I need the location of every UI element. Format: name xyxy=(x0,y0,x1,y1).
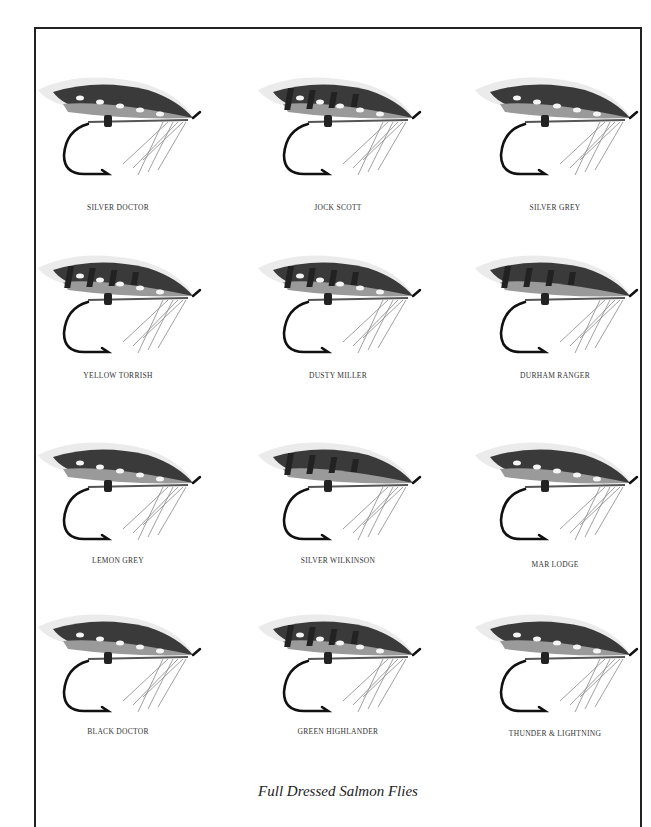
fly-illustration: THUNDER & LIGHTNING xyxy=(455,597,651,767)
fly-illustration: DURHAM RANGER xyxy=(455,238,651,408)
fly-illustration: JOCK SCOTT xyxy=(238,60,438,230)
fly-name-label: DURHAM RANGER xyxy=(455,371,651,380)
fly-name-label: SILVER WILKINSON xyxy=(238,556,438,565)
salmon-fly-icon xyxy=(455,425,651,555)
fly-illustration: DUSTY MILLER xyxy=(238,238,438,408)
salmon-fly-icon xyxy=(238,597,438,727)
salmon-fly-icon xyxy=(18,425,218,555)
salmon-fly-icon xyxy=(18,238,218,368)
fly-name-label: MAR LODGE xyxy=(455,560,651,569)
fly-name-label: GREEN HIGHLANDER xyxy=(238,727,438,736)
fly-illustration: GREEN HIGHLANDER xyxy=(238,597,438,767)
fly-name-label: DUSTY MILLER xyxy=(238,371,438,380)
plate-caption: Full Dressed Salmon Flies xyxy=(34,783,642,800)
salmon-fly-icon xyxy=(238,60,438,190)
fly-illustration: MAR LODGE xyxy=(455,425,651,595)
fly-illustration: LEMON GREY xyxy=(18,425,218,595)
salmon-fly-icon xyxy=(18,597,218,727)
fly-name-label: LEMON GREY xyxy=(18,556,218,565)
salmon-fly-icon xyxy=(238,425,438,555)
fly-illustration: SILVER GREY xyxy=(455,60,651,230)
salmon-fly-icon xyxy=(455,60,651,190)
fly-name-label: SILVER GREY xyxy=(455,203,651,212)
fly-name-label: SILVER DOCTOR xyxy=(18,203,218,212)
fly-illustration: YELLOW TORRISH xyxy=(18,238,218,408)
fly-name-label: BLACK DOCTOR xyxy=(18,727,218,736)
fly-illustration: SILVER WILKINSON xyxy=(238,425,438,595)
salmon-fly-icon xyxy=(238,238,438,368)
fly-illustration: SILVER DOCTOR xyxy=(18,60,218,230)
salmon-fly-icon xyxy=(18,60,218,190)
fly-name-label: THUNDER & LIGHTNING xyxy=(455,729,651,738)
salmon-fly-icon xyxy=(455,238,651,368)
fly-name-label: YELLOW TORRISH xyxy=(18,371,218,380)
fly-name-label: JOCK SCOTT xyxy=(238,203,438,212)
fly-illustration: BLACK DOCTOR xyxy=(18,597,218,767)
salmon-fly-icon xyxy=(455,597,651,727)
